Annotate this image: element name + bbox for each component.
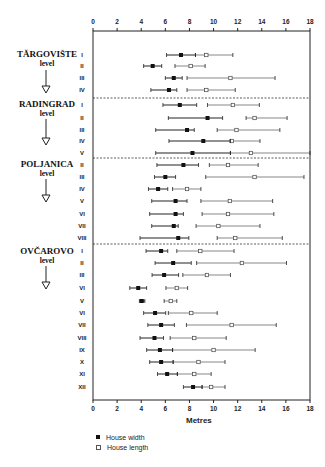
width-marker [163,175,167,179]
data-row: V [80,150,310,156]
width-marker [171,261,175,265]
length-marker [217,224,220,227]
data-row: IV [79,87,235,93]
width-marker [140,299,144,303]
row-label: VII [78,223,86,229]
data-row: II [80,115,287,121]
legend-label: House width [106,434,145,441]
data-row: XI [79,371,211,377]
width-marker [185,128,189,132]
length-marker [253,116,256,119]
length-marker [226,212,229,215]
tick-label-bottom: 16 [282,405,290,412]
length-marker [205,273,208,276]
range-chart: 002244668810101212141416161818 IIIIIIIVI… [0,0,325,467]
data-row: VI [79,285,187,291]
row-label: VIII [77,235,86,241]
length-marker [175,286,178,289]
row-label: II [80,63,84,69]
width-marker [172,76,176,80]
tick-label-top: 2 [115,18,119,25]
row-label: IV [79,138,85,144]
data-row: VIII [77,335,226,341]
row-label: V [80,150,84,156]
data-row: I [81,52,233,58]
row-label: VII [78,322,86,328]
data-row: VII [78,223,260,229]
width-marker [191,385,195,389]
row-label: IV [79,87,85,93]
length-marker [185,187,188,190]
row-label: III [79,174,84,180]
legend-item-length: House length [96,442,148,452]
tick-label-bottom: 14 [258,405,266,412]
width-marker [158,348,162,352]
data-row: II [80,260,286,266]
group-dividers [93,98,310,244]
width-marker [152,336,156,340]
length-marker [240,261,243,264]
row-label: XII [78,384,86,390]
width-marker [181,163,185,167]
width-marker [167,88,171,92]
data-row: IV [79,138,260,144]
width-marker [172,224,176,228]
tick-label-top: 4 [139,18,143,25]
row-label: V [80,298,84,304]
width-marker [174,212,178,216]
tick-label-top: 18 [306,18,314,25]
width-marker [176,236,180,240]
tick-label-top: 12 [234,18,242,25]
tick-label-top: 0 [91,18,95,25]
data-row: III [79,127,279,133]
length-marker [231,103,234,106]
data-row: VI [79,211,274,217]
length-marker [228,199,231,202]
data-row: VIII [77,235,282,241]
open-square-icon [96,445,101,450]
length-marker [193,372,196,375]
tick-label-top: 6 [164,18,168,25]
row-label: VI [79,310,85,316]
row-label: XI [79,371,85,377]
length-marker [229,76,232,79]
length-marker [199,249,202,252]
plot-frame [93,31,310,400]
data-row: IV [79,186,201,192]
width-marker [201,139,205,143]
tick-label-top: 8 [188,18,192,25]
width-marker [179,53,183,57]
tick-label-bottom: 8 [188,405,192,412]
tick-label-bottom: 6 [164,405,168,412]
width-marker [178,103,182,107]
tick-label-top: 16 [282,18,290,25]
row-label: VIII [77,335,86,341]
data-row: III [79,75,275,81]
width-marker [190,151,194,155]
data-rows: IIIIIIIVIIIIIIIVVIIIIIIVVVIVIIVIIIIIIIII… [77,52,310,390]
filled-square-icon [96,435,100,439]
width-marker [159,249,163,253]
length-marker [212,348,215,351]
tick-label-bottom: 2 [115,405,119,412]
row-label: IX [79,347,85,353]
row-label: VI [79,211,85,217]
width-marker [151,64,155,68]
row-label: II [80,260,84,266]
data-row: V [80,198,273,204]
row-label: III [79,75,84,81]
data-row: IX [79,347,255,353]
row-label: IV [79,186,85,192]
x-axis-title: Metres [186,416,212,425]
data-row: II [80,63,205,69]
length-marker [205,88,208,91]
legend-item-width: House width [96,432,148,442]
row-label: III [79,127,84,133]
width-marker [156,187,160,191]
length-marker [235,128,238,131]
row-label: I [81,102,83,108]
length-marker [190,311,193,314]
row-label: VI [79,285,85,291]
length-marker [234,236,237,239]
width-marker [206,116,210,120]
